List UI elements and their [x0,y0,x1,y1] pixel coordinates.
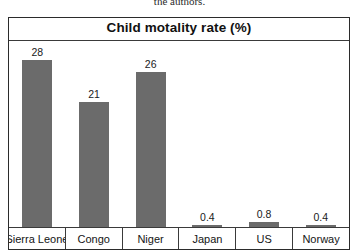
bar-rect [192,225,222,227]
bar-value-label: 28 [9,47,66,58]
bar-group: 28 [9,41,66,227]
bar-value-label: 0.4 [292,212,349,223]
bar-rect [136,72,166,227]
bar-group: 0.4 [292,41,349,227]
bar-value-label: 0.8 [236,209,293,220]
bar-value-label: 26 [122,59,179,70]
category-label: Japan [179,228,236,249]
plot-area: 2821260.40.80.4 [9,40,349,228]
category-label: Sierra Leone [9,228,66,249]
bar-group: 0.8 [236,41,293,227]
category-label: US [236,228,293,249]
chart-title: Child motality rate (%) [9,20,349,35]
bar-rect [249,222,279,227]
caption-text-fragment: the authors. [0,0,359,7]
category-label: Norway [293,228,349,249]
category-axis-labels: Sierra LeoneCongoNigerJapanUSNorway [9,228,349,249]
bar-rect [22,60,52,227]
category-label: Niger [123,228,180,249]
category-label: Congo [66,228,123,249]
bar-rect [306,225,336,227]
bar-group: 0.4 [179,41,236,227]
chart-figure: Child motality rate (%) 2821260.40.80.4 … [8,17,350,250]
bar-group: 21 [66,41,123,227]
bar-rect [79,102,109,227]
bar-group: 26 [122,41,179,227]
bar-value-label: 21 [66,89,123,100]
bar-value-label: 0.4 [179,212,236,223]
bars-layer: 2821260.40.80.4 [9,41,349,227]
